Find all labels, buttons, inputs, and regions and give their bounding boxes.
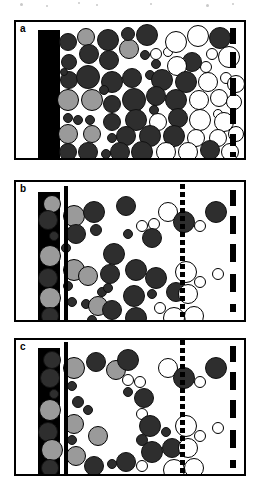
particle — [49, 231, 59, 241]
particle — [39, 245, 61, 267]
dot-segment — [180, 240, 185, 245]
panel-label-a: a — [20, 23, 26, 34]
particle — [57, 89, 79, 111]
dot-segment — [180, 436, 185, 441]
dot-segment — [180, 468, 185, 473]
dash-segment — [230, 346, 236, 362]
scan-speck — [206, 4, 209, 7]
scan-speck — [96, 4, 98, 6]
dot-segment — [180, 380, 185, 385]
scan-speck — [232, 3, 234, 5]
particle — [99, 85, 109, 95]
particle — [38, 268, 58, 288]
dash-segment — [230, 460, 236, 468]
particle — [85, 115, 95, 125]
particle — [184, 306, 204, 322]
particle — [136, 24, 158, 46]
particle — [100, 264, 120, 284]
particle — [194, 276, 206, 288]
particle — [122, 68, 142, 88]
particle — [189, 90, 209, 110]
particle — [125, 307, 147, 322]
dot-segment — [180, 264, 185, 269]
particle — [49, 389, 59, 399]
particle — [66, 446, 86, 466]
dot-segment — [180, 420, 185, 425]
particle — [142, 228, 162, 248]
panel-b: b — [14, 180, 246, 322]
dot-segment — [180, 216, 185, 221]
particle — [136, 460, 148, 472]
particle — [43, 351, 61, 369]
solid-vertical-line — [64, 186, 68, 322]
particle — [103, 283, 113, 293]
dot-segment — [180, 452, 185, 457]
scan-speck — [46, 5, 48, 7]
particle — [67, 297, 77, 307]
particle — [97, 29, 119, 51]
particle — [145, 267, 167, 289]
particle — [218, 46, 240, 68]
dash-segment — [230, 274, 236, 292]
dot-segment — [180, 372, 185, 377]
particle — [184, 458, 204, 476]
dotted-vertical-line — [180, 340, 185, 476]
particle — [79, 44, 99, 64]
particle — [86, 352, 106, 372]
particle — [41, 459, 59, 476]
particle — [125, 259, 147, 281]
dash-segment — [230, 190, 236, 206]
particle — [123, 229, 133, 239]
particle — [123, 387, 133, 397]
particle — [88, 426, 108, 446]
dot-segment — [180, 428, 185, 433]
particle — [116, 452, 136, 472]
particle — [189, 109, 211, 131]
dot-segment — [180, 200, 185, 205]
dash-segment — [230, 152, 236, 157]
dash-segment — [230, 108, 236, 124]
dot-segment — [180, 404, 185, 409]
dot-segment — [180, 364, 185, 369]
particle — [147, 289, 157, 299]
particle — [83, 125, 101, 143]
particle — [38, 210, 58, 230]
figure-root: abc — [0, 0, 260, 479]
particle — [59, 143, 77, 160]
particle — [205, 357, 227, 379]
particle — [99, 50, 119, 70]
dot-segment — [180, 192, 185, 197]
particle — [72, 396, 84, 408]
particle — [39, 399, 61, 421]
particle — [83, 405, 93, 415]
particle — [123, 285, 145, 307]
panel-a: a — [14, 20, 246, 160]
dotted-vertical-line — [180, 184, 185, 322]
particle — [76, 65, 100, 89]
particle — [103, 243, 125, 265]
particle — [119, 39, 139, 59]
panel-label-b: b — [20, 183, 26, 194]
particle — [84, 456, 104, 476]
particle — [39, 287, 61, 309]
particle — [59, 33, 77, 51]
particle — [194, 430, 206, 442]
particle — [60, 68, 68, 76]
dot-segment — [180, 304, 185, 309]
particle — [66, 224, 86, 244]
particle — [194, 220, 206, 232]
dot-segment — [180, 272, 185, 277]
particle — [41, 439, 63, 461]
dot-segment — [180, 396, 185, 401]
particle — [187, 25, 209, 47]
scan-artifact-row — [0, 0, 260, 14]
particle — [156, 142, 176, 160]
dot-segment — [180, 224, 185, 229]
panel-c: c — [14, 338, 246, 476]
dash-segment — [230, 304, 236, 312]
particle — [122, 374, 134, 386]
dot-segment — [180, 460, 185, 465]
particle — [67, 381, 77, 391]
dot-segment — [180, 444, 185, 449]
dot-segment — [180, 312, 185, 317]
